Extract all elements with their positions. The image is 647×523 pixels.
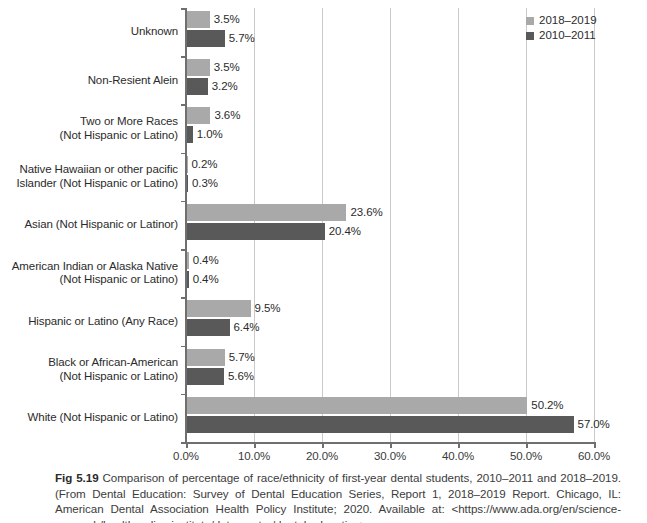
bar-1 <box>186 223 325 240</box>
bar-value-label: 1.0% <box>197 126 223 143</box>
y-axis-tick <box>181 394 186 396</box>
legend-swatch-icon <box>526 17 534 25</box>
bar-value-label: 6.4% <box>234 319 260 336</box>
x-axis-tick <box>322 442 324 448</box>
y-axis-tick <box>181 201 186 203</box>
bar-row: 3.5%3.2% <box>186 56 594 104</box>
bar-value-label: 5.7% <box>229 349 255 366</box>
y-axis-category-label-line: (Not Hispanic or Latino) <box>60 129 178 143</box>
legend-item: 2010–2011 <box>526 28 597 43</box>
bar-0 <box>186 107 210 124</box>
y-axis-category-label-line: (Not Hispanic or Latino) <box>12 273 178 287</box>
x-axis-tick-label: 40.0% <box>442 450 474 462</box>
y-axis-category-label-line: Unknown <box>131 25 178 39</box>
bar-1 <box>186 126 193 143</box>
x-axis-tick <box>390 442 392 448</box>
bar-0 <box>186 204 346 221</box>
bar-row: 5.7%5.6% <box>186 346 594 394</box>
x-axis-tick-label: 20.0% <box>306 450 338 462</box>
bar-value-label: 0.2% <box>192 156 218 173</box>
bar-1 <box>186 30 225 47</box>
x-axis-tick-label: 30.0% <box>374 450 406 462</box>
x-axis-tick <box>594 442 596 448</box>
chart-legend: 2018–20192010–2011 <box>526 13 597 43</box>
bar-row: 9.5%6.4% <box>186 297 594 345</box>
y-axis-category-label-line: White (Not Hispanic or Latino) <box>28 411 178 425</box>
y-axis-category-label: Unknown <box>131 25 178 39</box>
y-axis-category-label-line: Two or More Races <box>60 115 178 129</box>
bar-0 <box>186 397 527 414</box>
x-axis-tick-label: 10.0% <box>238 450 270 462</box>
y-axis-tick <box>181 297 186 299</box>
bar-1 <box>186 416 574 433</box>
y-axis-category-label-line: Native Hawaiian or other pacific <box>16 163 178 177</box>
bar-0 <box>186 11 210 28</box>
figure-caption: Fig 5.19 Comparison of percentage of rac… <box>55 470 621 523</box>
bar-value-label: 0.4% <box>193 271 219 288</box>
x-axis-tick-label: 0.0% <box>173 450 199 462</box>
x-axis-tick-label: 60.0% <box>578 450 610 462</box>
legend-swatch-icon <box>526 32 534 40</box>
x-axis-tick <box>254 442 256 448</box>
bar-1 <box>186 78 208 95</box>
bar-0 <box>186 349 225 366</box>
bar-value-label: 50.2% <box>531 397 563 414</box>
y-axis-category-label: American Indian or Alaska Native(Not His… <box>12 260 178 287</box>
y-axis-category-label-line: Asian (Not Hispanic or Latinor) <box>25 218 179 232</box>
y-axis-category-label-line: American Indian or Alaska Native <box>12 260 178 274</box>
y-axis-tick <box>181 153 186 155</box>
y-axis-category-label-line: (Not Hispanic or Latino) <box>48 370 178 384</box>
bar-value-label: 3.5% <box>214 59 240 76</box>
bar-value-label: 0.4% <box>193 252 219 269</box>
y-axis-category-label: Native Hawaiian or other pacificIslander… <box>16 163 178 190</box>
figure-number: Fig 5.19 <box>55 471 99 484</box>
bar-chart: 3.5%5.7%3.5%3.2%3.6%1.0%0.2%0.3%23.6%20.… <box>0 0 647 466</box>
x-axis-tick-label: 50.0% <box>510 450 542 462</box>
y-axis-category-label-line: Islander (Not Hispanic or Latino) <box>16 177 178 191</box>
bar-value-label: 3.2% <box>212 78 238 95</box>
bar-row: 23.6%20.4% <box>186 201 594 249</box>
y-axis-category-label: White (Not Hispanic or Latino) <box>28 411 178 425</box>
y-axis-category-label: Black or African-American(Not Hispanic o… <box>48 356 178 383</box>
x-axis-tick <box>458 442 460 448</box>
bar-value-label: 9.5% <box>255 300 281 317</box>
y-axis-tick <box>181 104 186 106</box>
y-axis-tick <box>181 249 186 251</box>
y-axis-line <box>185 8 187 442</box>
bar-row: 0.2%0.3% <box>186 153 594 201</box>
bar-row: 3.6%1.0% <box>186 104 594 152</box>
gridline <box>594 8 595 442</box>
bar-row: 0.4%0.4% <box>186 249 594 297</box>
bar-value-label: 3.6% <box>214 107 240 124</box>
figure-caption-text: Comparison of percentage of race/ethnici… <box>55 471 621 523</box>
y-axis-category-label: Hispanic or Latino (Any Race) <box>28 315 178 329</box>
plot-area: 3.5%5.7%3.5%3.2%3.6%1.0%0.2%0.3%23.6%20.… <box>186 8 594 442</box>
legend-label: 2018–2019 <box>539 13 597 28</box>
bar-value-label: 3.5% <box>214 11 240 28</box>
y-axis-category-label: Two or More Races(Not Hispanic or Latino… <box>60 115 178 142</box>
bar-value-label: 57.0% <box>578 416 610 433</box>
y-axis-tick <box>181 56 186 58</box>
y-axis-category-label: Non-Resient Alein <box>88 74 178 88</box>
y-axis-tick <box>181 8 186 10</box>
bar-row: 50.2%57.0% <box>186 394 594 442</box>
figure-5-19: 3.5%5.7%3.5%3.2%3.6%1.0%0.2%0.3%23.6%20.… <box>0 0 647 523</box>
bar-0 <box>186 300 251 317</box>
bar-0 <box>186 59 210 76</box>
bar-1 <box>186 319 230 336</box>
legend-label: 2010–2011 <box>539 28 596 43</box>
bar-value-label: 5.6% <box>228 368 254 385</box>
bar-value-label: 5.7% <box>229 30 255 47</box>
bar-value-label: 23.6% <box>350 204 382 221</box>
x-axis-tick <box>526 442 528 448</box>
y-axis-category-label-line: Black or African-American <box>48 356 178 370</box>
bar-value-label: 20.4% <box>329 223 361 240</box>
y-axis-category-label-line: Non-Resient Alein <box>88 74 178 88</box>
bar-value-label: 0.3% <box>192 175 218 192</box>
x-axis-tick <box>186 442 188 448</box>
y-axis-tick <box>181 346 186 348</box>
bar-1 <box>186 368 224 385</box>
y-axis-category-label: Asian (Not Hispanic or Latinor) <box>25 218 179 232</box>
y-axis-category-label-line: Hispanic or Latino (Any Race) <box>28 315 178 329</box>
legend-item: 2018–2019 <box>526 13 597 28</box>
